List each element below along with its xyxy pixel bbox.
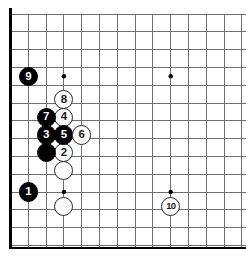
goban-grid (0, 0, 246, 257)
stone-10[interactable]: 10 (161, 197, 180, 216)
go-board-diagram: 12345678910 (0, 0, 246, 257)
stone-5[interactable]: 5 (54, 125, 73, 144)
star-point (169, 74, 173, 78)
star-point (62, 74, 66, 78)
stone-black-plain[interactable] (37, 143, 56, 162)
stone-3[interactable]: 3 (37, 125, 56, 144)
stone-move-number: 6 (79, 129, 85, 141)
stone-move-number: 5 (61, 129, 67, 141)
stone-move-number: 8 (61, 94, 67, 106)
stone-move-number: 1 (25, 186, 31, 198)
stone-9[interactable]: 9 (19, 67, 38, 86)
stone-move-number: 7 (43, 111, 49, 123)
star-point (169, 190, 173, 194)
stone-move-number: 3 (43, 129, 49, 141)
stone-move-number: 2 (61, 147, 67, 159)
stone-move-number: 9 (25, 71, 31, 83)
stone-1[interactable]: 1 (19, 182, 38, 201)
stone-6[interactable]: 6 (72, 125, 91, 144)
stone-7[interactable]: 7 (37, 108, 56, 127)
star-point (62, 190, 66, 194)
stone-move-number: 4 (61, 111, 67, 123)
stone-move-number: 10 (166, 201, 175, 211)
